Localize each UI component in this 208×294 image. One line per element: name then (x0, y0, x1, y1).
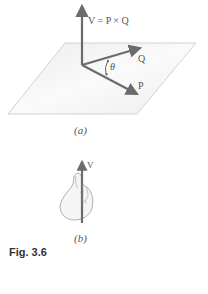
v-label-b: V (87, 160, 94, 170)
theta-label: θ (110, 61, 115, 72)
equation-label: V = P × Q (88, 15, 129, 26)
panel-b (60, 162, 93, 223)
q-label: Q (138, 53, 145, 64)
p-label: P (138, 80, 144, 91)
panel-b-label: (b) (74, 232, 87, 244)
plane (8, 43, 196, 114)
figure-caption: Fig. 3.6 (9, 246, 47, 258)
panel-a-label: (a) (74, 124, 87, 136)
